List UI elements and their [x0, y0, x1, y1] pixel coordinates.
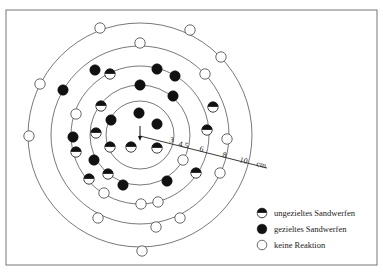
open-circle-icon	[200, 69, 210, 79]
filled-circle-icon	[152, 119, 162, 129]
legend-label-keine-reaktion: keine Reaktion	[274, 240, 326, 250]
filled-circle-icon	[89, 155, 99, 165]
open-circle-icon	[257, 240, 267, 250]
open-circle-icon	[151, 222, 161, 232]
open-circle-icon	[136, 199, 146, 209]
filled-circle-icon	[106, 115, 116, 125]
open-circle-icon	[137, 246, 147, 256]
open-circle-icon	[99, 188, 109, 198]
filled-circle-icon	[135, 80, 145, 90]
filled-circle-icon	[118, 180, 128, 190]
half-filled-circle-icon	[257, 208, 267, 218]
open-circle-icon	[95, 23, 105, 33]
filled-circle-icon	[68, 132, 78, 142]
half-filled-circle-icon	[71, 147, 81, 157]
center-arrow-icon	[138, 126, 142, 141]
filled-circle-icon	[152, 64, 162, 74]
filled-circle-icon	[257, 224, 267, 234]
half-filled-circle-icon	[126, 142, 136, 152]
open-circle-icon	[216, 52, 226, 62]
half-filled-circle-icon	[191, 168, 201, 178]
half-filled-circle-icon	[202, 125, 212, 135]
legend-label-gezieltes: gezieltes Sandwerfen	[274, 224, 347, 234]
filled-circle-icon	[162, 176, 172, 186]
open-circle-icon	[135, 38, 145, 48]
half-filled-circle-icon	[105, 142, 115, 152]
legend-item-ungezieltes: ungezieltes Sandwerfen	[257, 208, 356, 218]
open-circle-icon	[93, 213, 103, 223]
half-filled-circle-icon	[84, 174, 94, 184]
legend-item-keine-reaktion: keine Reaktion	[257, 240, 326, 250]
open-circle-icon	[178, 155, 188, 165]
half-filled-circle-icon	[152, 143, 162, 153]
concentric-rings-diagram: 34.56810cm ungezieltes Sandwerfen geziel…	[0, 0, 383, 272]
open-circle-icon	[24, 131, 34, 141]
legend-item-gezieltes: gezieltes Sandwerfen	[257, 224, 347, 234]
half-filled-circle-icon	[208, 102, 218, 112]
open-circle-icon	[153, 197, 163, 207]
filled-circle-icon	[90, 65, 100, 75]
scale-tick-label: 4.5	[178, 139, 190, 150]
open-circle-icon	[215, 168, 225, 178]
filled-circle-icon	[257, 224, 267, 234]
response-markers	[24, 23, 232, 256]
filled-circle-icon	[170, 71, 180, 81]
open-circle-icon	[35, 79, 45, 89]
half-filled-circle-icon	[103, 169, 113, 179]
legend-label-ungezieltes: ungezieltes Sandwerfen	[274, 208, 356, 218]
open-circle-icon	[175, 213, 185, 223]
open-circle-icon	[185, 25, 195, 35]
filled-circle-icon	[168, 91, 178, 101]
half-filled-circle-icon	[257, 208, 267, 218]
open-circle-icon	[71, 109, 81, 119]
filled-circle-icon	[58, 85, 68, 95]
scale-unit-label: cm	[256, 159, 268, 170]
half-filled-circle-icon	[91, 128, 101, 138]
half-filled-circle-icon	[105, 69, 115, 79]
filled-circle-icon	[134, 108, 144, 118]
half-filled-circle-icon	[96, 101, 106, 111]
open-circle-icon	[257, 240, 267, 250]
legend: ungezieltes Sandwerfen gezieltes Sandwer…	[257, 208, 356, 250]
scale-tick-label: 10	[239, 155, 249, 166]
open-circle-icon	[222, 134, 232, 144]
